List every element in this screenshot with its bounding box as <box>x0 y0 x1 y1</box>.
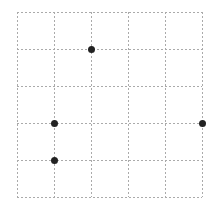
dot-grid-diagram <box>0 0 214 213</box>
grid-point <box>51 120 58 127</box>
grid-lines <box>17 12 203 198</box>
grid-point <box>51 157 58 164</box>
grid-point <box>88 46 95 53</box>
grid-point <box>199 120 206 127</box>
